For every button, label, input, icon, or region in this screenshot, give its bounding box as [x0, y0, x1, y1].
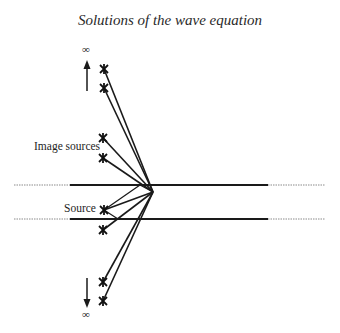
image-sources-label: Image sources: [34, 140, 100, 152]
star-icon: [99, 225, 107, 235]
star-icon: [99, 133, 107, 143]
star-icon: [100, 83, 108, 93]
boundary-lines: [14, 185, 325, 219]
arrow-up-head-icon: [84, 60, 91, 69]
arrow-down-head-icon: [84, 299, 91, 308]
source-star-icon: [100, 205, 108, 215]
star-icon: [99, 153, 107, 163]
star-icon: [99, 296, 107, 306]
ray-1: [104, 69, 153, 192]
ray-6: [103, 192, 153, 230]
ray-2: [104, 88, 153, 192]
infinity-arrows: [84, 60, 91, 308]
star-icon: [99, 277, 107, 287]
infinity-top-label: ∞: [82, 43, 90, 55]
star-icon: [100, 64, 108, 74]
infinity-bottom-label: ∞: [82, 308, 90, 320]
ray-3: [103, 138, 153, 192]
wave-diagram: [0, 0, 340, 333]
source-label: Source: [64, 202, 96, 214]
